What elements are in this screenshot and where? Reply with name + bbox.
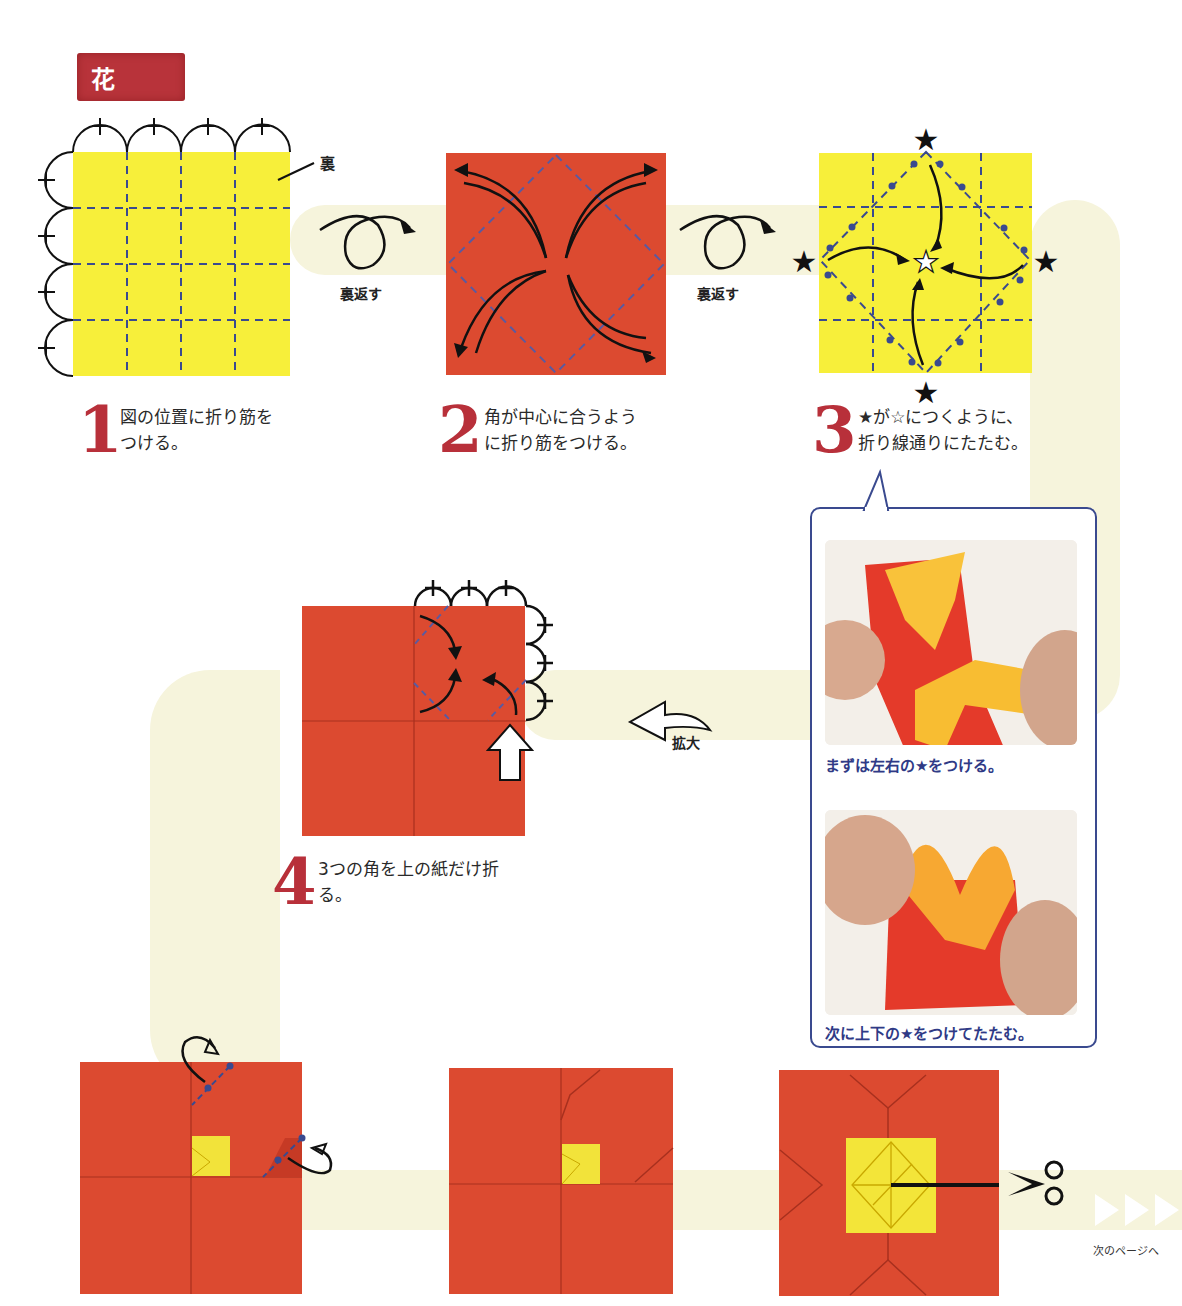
step-text-4-line2: る。 <box>318 882 499 908</box>
scissors-icon <box>1008 1162 1062 1204</box>
svg-text:★: ★ <box>1033 244 1060 279</box>
photo-fold-top-bottom <box>825 810 1077 1015</box>
svg-text:★: ★ <box>913 122 940 157</box>
step-text-1-line1: 図の位置に折り筋を <box>120 404 273 430</box>
callout-pointer <box>860 470 900 512</box>
step4-creases-and-arrows <box>290 570 560 840</box>
loop-arrow-icon <box>678 210 778 280</box>
step-text-4: 3つの角を上の紙だけ折 る。 <box>318 856 499 908</box>
flip-over-label-2: 裏返す <box>697 283 739 303</box>
loop-arrow-icon <box>318 210 418 280</box>
photo2-caption: 次に上下の★をつけてたたむ。 <box>825 1022 1033 1043</box>
step3-creases-and-stars: ★ ★ ★ ★ ★ <box>780 120 1070 410</box>
step2-creases-and-arrows <box>446 153 666 375</box>
flip-over-label-1: 裏返す <box>340 283 382 303</box>
step-text-2-line2: に折り筋をつける。 <box>484 430 637 456</box>
step-text-1: 図の位置に折り筋を つける。 <box>120 404 273 456</box>
svg-text:★: ★ <box>913 244 940 279</box>
step-text-2: 角が中心に合うよう に折り筋をつける。 <box>484 404 637 456</box>
svg-text:★: ★ <box>791 244 818 279</box>
step6-folds <box>430 1050 690 1306</box>
photo-fold-left-right <box>825 540 1077 745</box>
step-text-3: ★が☆につくように、 折り線通りにたたむ。 <box>858 404 1028 456</box>
step-text-4-line1: 3つの角を上の紙だけ折 <box>318 856 499 882</box>
step-text-3-line1: ★が☆につくように、 <box>858 404 1028 430</box>
next-page-link[interactable]: 次のページへ <box>1093 1242 1159 1258</box>
back-side-label: 裏 <box>320 152 335 173</box>
step-text-2-line1: 角が中心に合うよう <box>484 404 637 430</box>
step-text-1-line2: つける。 <box>120 430 273 456</box>
step-number-3: 3 <box>812 398 857 462</box>
triple-triangle-icon[interactable] <box>1095 1192 1182 1228</box>
step-number-4: 4 <box>272 850 317 914</box>
step-text-3-line2: 折り線通りにたたむ。 <box>858 430 1028 456</box>
photo1-caption: まずは左右の★をつける。 <box>825 754 1003 775</box>
step5-folds <box>60 1030 360 1306</box>
step-number-2: 2 <box>438 398 483 462</box>
step7-folds <box>760 1060 1080 1306</box>
zoom-label: 拡大 <box>672 732 700 752</box>
step-number-1: 1 <box>78 398 123 462</box>
